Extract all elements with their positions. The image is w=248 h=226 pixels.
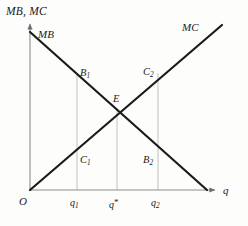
point-sub-c1: 1 <box>87 159 91 167</box>
point-sub-b1: 1 <box>86 72 90 80</box>
mb-mc-diagram: MB, MC MB MC B1 C2 E C1 B2 O q1 q* q2 q <box>0 0 248 226</box>
y-axis-label: MB, MC <box>6 6 47 18</box>
point-letter-e: E <box>113 93 119 104</box>
point-label-b2: B2 <box>143 155 153 167</box>
point-sub-b2: 2 <box>149 159 153 167</box>
point-label-c1: C1 <box>80 155 91 167</box>
x-tick-star-qstar: * <box>114 197 119 207</box>
x-tick-label-q2: q2 <box>151 198 160 210</box>
mc-curve <box>30 25 222 190</box>
x-tick-sub-q2: 2 <box>156 202 160 210</box>
point-label-e: E <box>113 94 119 106</box>
x-tick-label-qstar: q* <box>109 198 119 210</box>
point-letter-c2: C <box>143 66 150 77</box>
x-axis-label: q <box>223 185 229 196</box>
mb-curve-label: MB <box>38 29 54 40</box>
origin-label: O <box>19 196 27 207</box>
point-letter-c1: C <box>80 154 87 165</box>
x-tick-sub-q1: 1 <box>75 202 79 210</box>
point-sub-c2: 2 <box>150 71 154 79</box>
x-tick-label-q1: q1 <box>70 198 79 210</box>
point-label-c2: C2 <box>143 67 154 79</box>
mc-curve-label: MC <box>182 22 199 33</box>
point-label-b1: B1 <box>80 68 90 80</box>
